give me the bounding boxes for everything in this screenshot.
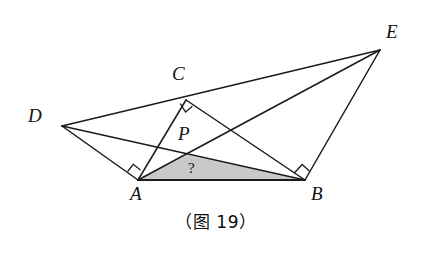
vertex-label-P: P: [178, 124, 190, 143]
figure-page: D C E P A B ? （图 19）: [0, 0, 432, 261]
vertex-label-E: E: [386, 22, 398, 41]
vertex-label-D: D: [28, 106, 42, 125]
figure-caption: （图 19）: [0, 208, 432, 233]
vertex-label-B: B: [311, 184, 323, 203]
segment-D-E: [62, 50, 380, 126]
right-angle-at-B-marker: [295, 165, 310, 173]
vertex-label-A: A: [130, 184, 142, 203]
right-angle-at-A-marker: [128, 164, 141, 171]
shaded-triangle-APB: [138, 155, 305, 180]
figure-segments: [62, 50, 380, 180]
unknown-area-marker: ?: [188, 161, 195, 176]
vertex-label-C: C: [172, 64, 185, 83]
